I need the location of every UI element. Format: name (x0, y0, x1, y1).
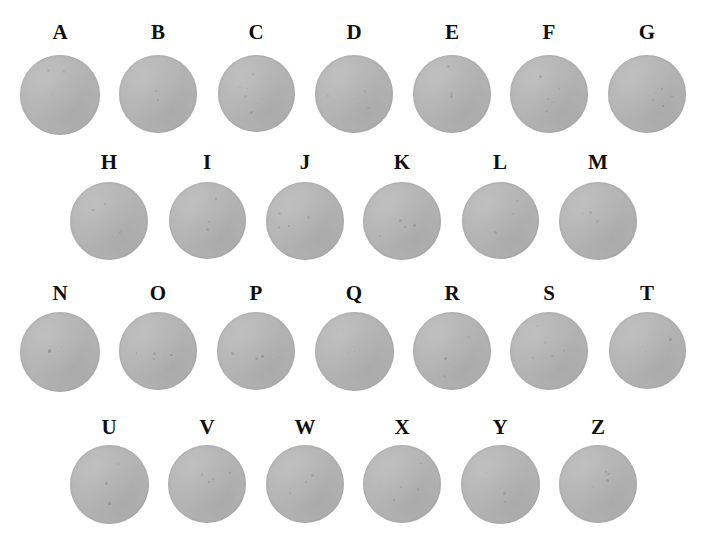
disc-speck (417, 488, 419, 490)
disc-speck (105, 482, 108, 485)
disc-speck (379, 483, 380, 484)
specimen-label-y: Y (461, 417, 540, 438)
specimen-cell-y[interactable]: Y (461, 417, 540, 524)
disc-speck (503, 492, 506, 495)
disc-speck (289, 492, 291, 494)
specimen-cell-z[interactable]: Z (559, 417, 637, 523)
specimen-row: UVWXYZ (0, 0, 701, 555)
disc-speck (485, 472, 487, 474)
disc-speck (212, 478, 214, 480)
specimen-disc-z[interactable] (559, 445, 637, 523)
disc-speck (607, 473, 609, 475)
specimen-label-w: W (266, 417, 344, 438)
specimen-disc-x[interactable] (363, 445, 441, 523)
disc-speck (108, 502, 111, 505)
disc-speck (117, 463, 119, 465)
disc-speck (605, 471, 607, 473)
disc-speck (208, 481, 210, 483)
disc-speck (381, 481, 382, 482)
disc-speck (311, 474, 314, 477)
specimen-disc-v[interactable] (168, 445, 246, 523)
disc-speck (592, 486, 594, 488)
specimen-label-v: V (168, 417, 246, 438)
specimen-cell-w[interactable]: W (266, 417, 344, 523)
specimen-label-u: U (70, 417, 149, 438)
specimen-label-x: X (363, 417, 441, 438)
specimen-disc-u[interactable] (70, 445, 149, 524)
disc-speck (110, 478, 111, 479)
disc-speck (305, 481, 307, 483)
disc-speck (606, 479, 608, 481)
specimen-cell-v[interactable]: V (168, 417, 246, 523)
specimen-label-z: Z (559, 417, 637, 438)
disc-speck (393, 499, 395, 501)
specimen-disc-y[interactable] (461, 445, 540, 524)
disc-speck (420, 463, 421, 464)
disc-speck (500, 488, 501, 489)
specimen-cell-x[interactable]: X (363, 417, 441, 523)
specimen-cell-u[interactable]: U (70, 417, 149, 524)
disc-speck (290, 488, 291, 489)
disc-speck (229, 472, 231, 474)
disc-speck (490, 460, 491, 461)
specimen-grid-figure: ABCDEFGHIJKLMNOPQRSTUVWXYZ (0, 0, 701, 555)
disc-speck (504, 501, 506, 503)
disc-speck (400, 486, 402, 488)
disc-speck (201, 473, 203, 475)
specimen-disc-w[interactable] (266, 445, 344, 523)
disc-speck (213, 481, 214, 482)
